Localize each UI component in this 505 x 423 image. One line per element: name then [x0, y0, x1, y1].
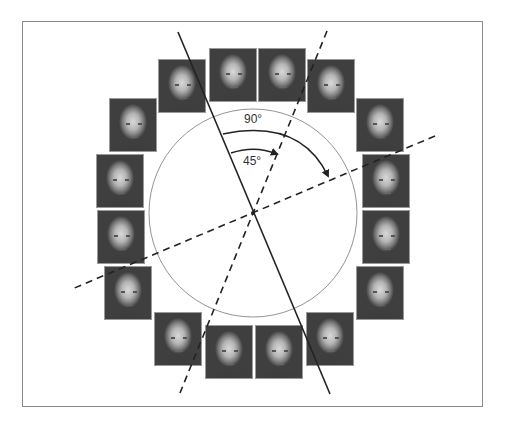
angle-label-45: 45° [243, 154, 261, 168]
center-point [251, 211, 255, 215]
diagram-overlay [0, 0, 505, 423]
angle-label-90: 90° [244, 112, 262, 126]
